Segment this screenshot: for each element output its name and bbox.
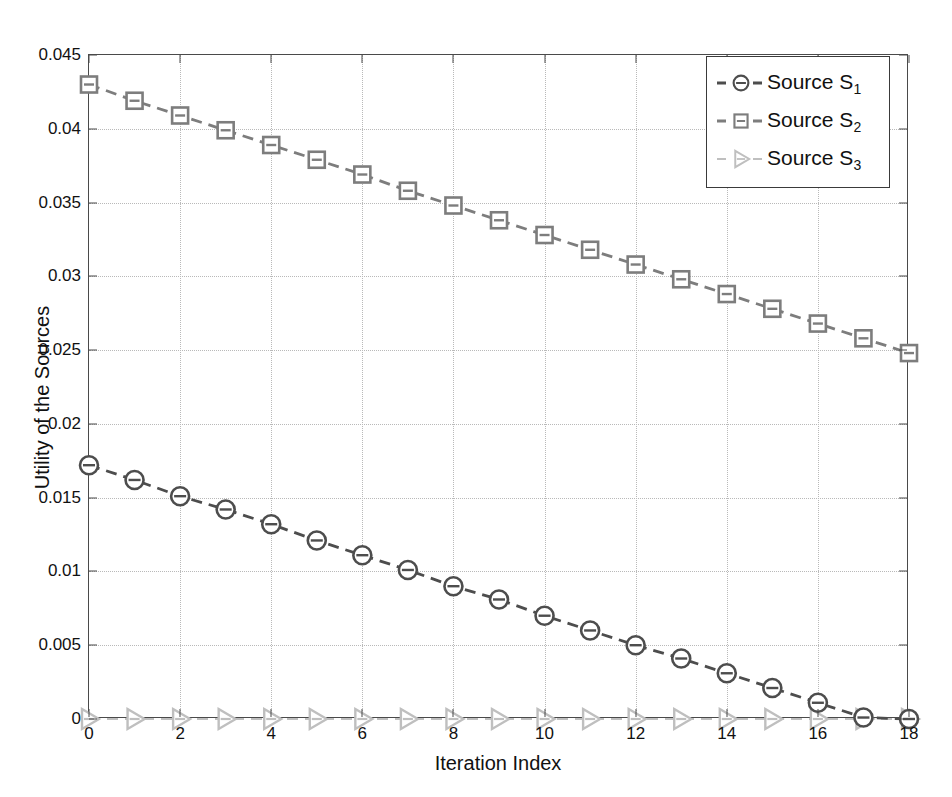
y-tick-mark <box>89 128 97 129</box>
data-point-marker <box>353 546 371 564</box>
x-tick-mark-top <box>180 55 181 63</box>
x-tick-label: 2 <box>175 724 184 744</box>
right-triangle-marker <box>715 147 767 171</box>
data-point-marker <box>81 77 97 93</box>
y-tick-mark-right <box>899 128 907 129</box>
data-point-marker <box>80 456 98 474</box>
data-point-marker <box>582 242 598 258</box>
legend-label: Source S1 <box>767 71 861 96</box>
x-tick-label: 10 <box>535 724 554 744</box>
x-tick-label: 12 <box>626 724 645 744</box>
y-tick-mark-right <box>899 497 907 498</box>
legend-label: Source S2 <box>767 109 861 134</box>
y-tick-mark-right <box>899 719 907 720</box>
y-tick-mark-right <box>899 571 907 572</box>
data-point-marker <box>217 500 235 518</box>
y-tick-mark <box>89 276 97 277</box>
data-point-marker <box>628 257 644 273</box>
y-tick-mark <box>89 719 97 720</box>
data-point-marker <box>854 709 872 727</box>
y-tick-mark-right <box>899 423 907 424</box>
data-point-marker <box>128 709 145 729</box>
data-point-marker <box>308 531 326 549</box>
data-point-marker <box>627 636 645 654</box>
legend-item-1[interactable]: Source S1 <box>715 64 881 102</box>
data-point-marker <box>673 271 689 287</box>
y-tick-mark-right <box>899 202 907 203</box>
circle-marker <box>715 71 767 95</box>
x-tick-label: 18 <box>900 724 919 744</box>
x-tick-label: 16 <box>808 724 827 744</box>
data-point-marker <box>126 471 144 489</box>
x-tick-label: 6 <box>358 724 367 744</box>
x-tick-mark-top <box>544 55 545 63</box>
y-tick-mark-right <box>899 276 907 277</box>
y-tick-label: 0.005 <box>38 635 81 655</box>
data-point-marker <box>901 345 917 361</box>
data-point-marker <box>219 709 236 729</box>
y-axis-label: Utility of the Sources <box>31 188 54 608</box>
x-tick-mark <box>817 709 818 717</box>
legend-item-2[interactable]: Source S2 <box>715 102 881 140</box>
data-point-marker <box>674 709 691 729</box>
data-point-marker <box>581 621 599 639</box>
y-tick-label: 0.045 <box>38 45 81 65</box>
x-tick-label: 14 <box>717 724 736 744</box>
data-point-marker <box>401 709 418 729</box>
data-point-marker <box>764 301 780 317</box>
data-point-marker <box>492 709 509 729</box>
x-tick-mark <box>909 709 910 717</box>
data-point-marker <box>491 212 507 228</box>
x-tick-mark <box>635 709 636 717</box>
data-point-marker <box>400 183 416 199</box>
x-tick-mark-top <box>271 55 272 63</box>
data-point-marker <box>765 709 782 729</box>
data-point-marker <box>672 650 690 668</box>
legend-label: Source S3 <box>767 147 861 172</box>
data-point-marker <box>127 93 143 109</box>
data-point-marker <box>309 152 325 168</box>
data-point-marker <box>763 679 781 697</box>
figure-canvas: 02468101214161800.0050.010.0150.020.0250… <box>0 0 952 797</box>
x-tick-label: 0 <box>84 724 93 744</box>
data-point-marker <box>718 664 736 682</box>
x-tick-label: 8 <box>449 724 458 744</box>
data-point-marker <box>399 561 417 579</box>
x-tick-mark-top <box>453 55 454 63</box>
y-tick-mark <box>89 423 97 424</box>
y-tick-mark <box>89 202 97 203</box>
x-tick-mark <box>726 709 727 717</box>
y-tick-mark <box>89 497 97 498</box>
data-point-marker <box>537 227 553 243</box>
x-tick-mark <box>180 709 181 717</box>
x-tick-mark <box>362 709 363 717</box>
x-tick-mark <box>544 709 545 717</box>
y-tick-mark <box>89 55 97 56</box>
series-source-s3 <box>82 709 919 729</box>
y-tick-mark-right <box>899 350 907 351</box>
faint-header-text <box>250 0 770 10</box>
legend-box: Source S1Source S2Source S3 <box>706 56 890 188</box>
data-point-marker <box>445 198 461 214</box>
data-point-marker <box>171 487 189 505</box>
y-tick-mark <box>89 645 97 646</box>
x-axis-label: Iteration Index <box>88 752 908 775</box>
data-point-marker <box>536 607 554 625</box>
y-tick-mark-right <box>899 645 907 646</box>
x-tick-mark <box>271 709 272 717</box>
x-tick-mark <box>89 709 90 717</box>
y-tick-mark <box>89 571 97 572</box>
data-point-marker <box>310 709 327 729</box>
x-tick-label: 4 <box>266 724 275 744</box>
data-point-marker <box>810 316 826 332</box>
x-tick-mark-top <box>89 55 90 63</box>
x-tick-mark-top <box>362 55 363 63</box>
y-tick-mark-right <box>899 55 907 56</box>
data-point-marker <box>354 167 370 183</box>
x-tick-mark-top <box>635 55 636 63</box>
data-point-marker <box>172 107 188 123</box>
data-point-marker <box>719 286 735 302</box>
data-point-marker <box>583 709 600 729</box>
legend-item-3[interactable]: Source S3 <box>715 140 881 178</box>
data-point-marker <box>263 137 279 153</box>
